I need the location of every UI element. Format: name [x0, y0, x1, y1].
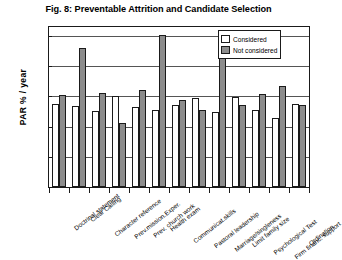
bar-group — [149, 27, 169, 187]
x-axis-category-label: Communicat.skills — [192, 207, 237, 244]
bar-considered — [52, 104, 59, 187]
bar-group — [89, 27, 109, 187]
bar-not-considered — [259, 94, 266, 187]
bar-group — [109, 27, 129, 187]
bar-not-considered — [199, 110, 206, 187]
bar-considered — [132, 107, 139, 187]
legend-swatch-considered — [221, 35, 230, 43]
bar-considered — [92, 111, 99, 187]
bar-considered — [172, 105, 179, 187]
bar-considered — [152, 110, 159, 187]
bar-not-considered — [79, 48, 86, 187]
bar-considered — [112, 96, 119, 187]
legend-label: Considered — [233, 36, 267, 43]
bar-not-considered — [159, 35, 166, 187]
x-axis-category-labels: Doctrinal statementClear CallingCharacte… — [0, 190, 317, 251]
y-axis-title: PAR % / year — [18, 52, 28, 142]
bar-considered — [192, 98, 199, 187]
bar-not-considered — [299, 105, 306, 187]
bar-not-considered — [219, 56, 226, 187]
bar-group — [169, 27, 189, 187]
bar-considered — [72, 106, 79, 187]
bar-group — [129, 27, 149, 187]
bar-considered — [232, 97, 239, 187]
bar-not-considered — [119, 123, 126, 187]
bar-not-considered — [279, 86, 286, 187]
bar-not-considered — [99, 93, 106, 187]
bar-considered — [272, 118, 279, 187]
bar-group — [289, 27, 309, 187]
page-title: Fig. 8: Preventable Attrition and Candid… — [0, 4, 317, 14]
bar-group — [49, 27, 69, 187]
chart-legend: ConsideredNot considered — [218, 30, 281, 59]
legend-item: Considered — [221, 34, 277, 44]
bar-considered — [252, 110, 259, 187]
legend-item: Not considered — [221, 45, 277, 55]
bar-group — [189, 27, 209, 187]
bar-not-considered — [59, 95, 66, 187]
bar-considered — [292, 104, 299, 187]
bar-not-considered — [179, 100, 186, 187]
legend-swatch-not-considered — [221, 46, 230, 54]
bar-group — [69, 27, 89, 187]
bar-not-considered — [239, 105, 246, 187]
bar-considered — [212, 112, 219, 187]
legend-label: Not considered — [233, 47, 277, 54]
bar-not-considered — [139, 90, 146, 187]
